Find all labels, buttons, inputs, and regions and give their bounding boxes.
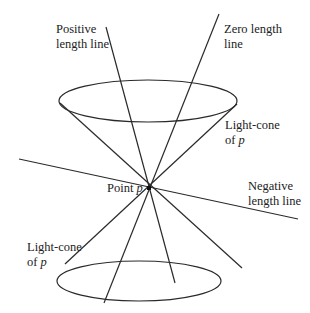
lower-cone-label-1: Light-cone xyxy=(27,240,82,254)
positive-length-line xyxy=(106,27,175,283)
lower-cone-rim xyxy=(57,261,221,301)
upper-cone-label-1: Light-cone xyxy=(225,118,280,132)
lower-cone-label-2: of p xyxy=(27,255,47,269)
positive-line-label-1: Positive xyxy=(56,22,97,36)
point-p-marker xyxy=(147,186,151,190)
light-cone-diagram: Positive length line Zero length line Li… xyxy=(0,0,310,313)
negative-line-label-1: Negative xyxy=(248,179,294,193)
upper-cone-rim xyxy=(59,80,237,122)
zero-line-label-2: line xyxy=(224,37,243,51)
upper-cone-label-2: of p xyxy=(225,133,245,147)
point-p-label: Point p xyxy=(107,181,143,195)
zero-line-label-1: Zero length xyxy=(224,22,283,36)
positive-line-label-2: length line xyxy=(56,37,110,51)
negative-line-label-2: length line xyxy=(248,194,302,208)
